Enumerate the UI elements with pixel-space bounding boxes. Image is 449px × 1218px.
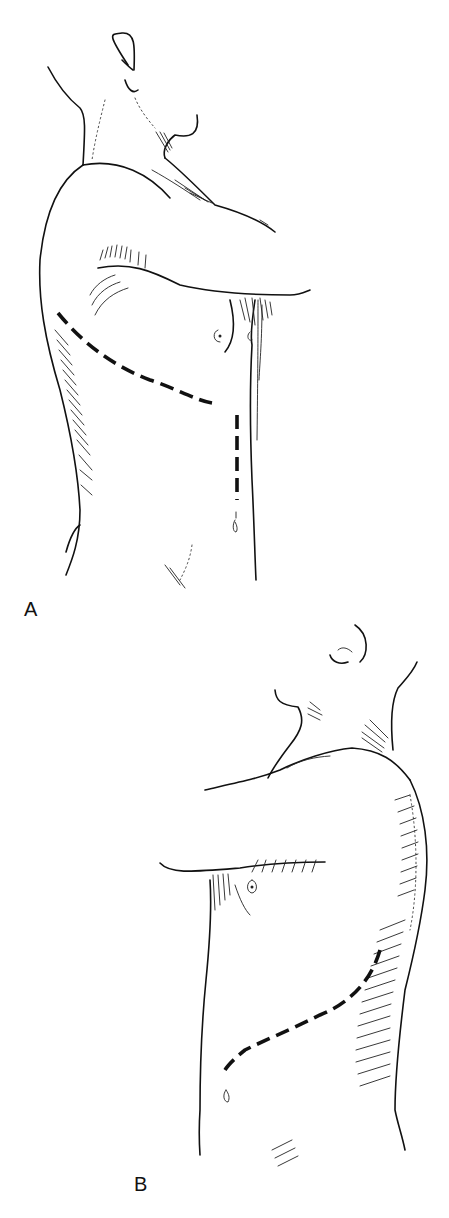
navel — [233, 520, 237, 532]
incision-lateral-thoracic — [58, 313, 212, 403]
panel-b-illustration — [0, 610, 449, 1170]
ear — [113, 33, 135, 70]
torso-drawing-b — [0, 610, 449, 1170]
panel-a-illustration — [0, 0, 449, 600]
navel — [224, 1090, 229, 1102]
incision-oblique-thoracoabdominal — [225, 950, 380, 1070]
torso-drawing-a — [0, 0, 449, 600]
panel-label-b: B — [134, 1173, 147, 1196]
